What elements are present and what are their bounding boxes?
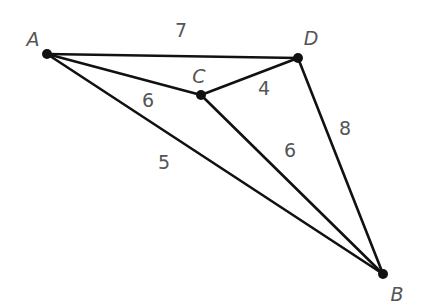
edge-d-b (298, 58, 383, 274)
vertex-label-c: C (192, 65, 206, 87)
vertex-label-b: B (390, 283, 403, 305)
edge-c-b (201, 95, 383, 274)
edge-a-c (47, 54, 201, 95)
node-c-dot (196, 90, 206, 100)
weight-label-c-b: 6 (284, 139, 296, 161)
vertex-label-d: D (304, 27, 319, 49)
vertex-labels: A B C D (25, 27, 404, 305)
vertex-label-a: A (25, 28, 40, 50)
node-a-dot (42, 49, 52, 59)
weight-label-a-c: 6 (142, 89, 154, 111)
node-b-dot (378, 269, 388, 279)
edges (47, 54, 383, 274)
weight-label-c-d: 4 (258, 77, 270, 99)
edge-a-b (47, 54, 383, 274)
edge-a-d (47, 54, 298, 58)
edge-c-d (201, 58, 298, 95)
edge-weights: 7 6 4 5 6 8 (142, 19, 351, 173)
weight-label-a-d: 7 (175, 19, 187, 41)
weighted-graph-diagram: 7 6 4 5 6 8 A B C D (0, 0, 430, 308)
node-d-dot (293, 53, 303, 63)
weight-label-d-b: 8 (339, 117, 351, 139)
weight-label-a-b: 5 (158, 151, 170, 173)
